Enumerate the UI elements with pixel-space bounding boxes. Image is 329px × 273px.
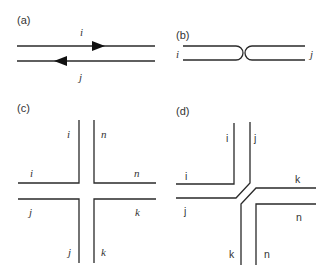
c-label-k-bottom: k [101, 246, 107, 258]
arrow-right-icon [92, 41, 105, 51]
d-label-n-right: n [296, 211, 302, 223]
panel-b: (b) i j [176, 29, 313, 60]
d-label-j-left: j [183, 205, 186, 217]
c-label-i-top: i [67, 128, 70, 140]
panel-b-label: (b) [176, 29, 189, 41]
arrow-left-icon [54, 56, 67, 66]
d-label-i-left: i [185, 170, 187, 182]
path-j [176, 122, 250, 198]
c-label-n-top: n [101, 128, 107, 140]
c-label-n-right: n [134, 167, 140, 179]
right-capped-segment [245, 46, 305, 60]
c-label-j-left: j [27, 206, 32, 218]
panel-a-label: (a) [17, 14, 30, 26]
c-label-k-right: k [135, 206, 141, 218]
d-label-k-bottom: k [229, 248, 235, 260]
line-diagram: (a) i j (b) i j (c) i n i n j k j k (d) [0, 0, 329, 273]
d-label-i-top: i [226, 132, 228, 144]
panel-d-label: (d) [176, 105, 189, 117]
line-i-label: i [80, 26, 83, 38]
path-k [241, 188, 316, 265]
d-label-n-bottom: n [264, 248, 270, 260]
d-label-j-top: j [253, 132, 256, 144]
panel-d: (d) i j i k j n k n [176, 105, 316, 265]
right-segment-label: j [308, 48, 313, 60]
c-label-j-bottom: j [66, 246, 71, 258]
panel-c: (c) i n i n j k j k [17, 102, 156, 263]
line-j-label: j [77, 71, 82, 83]
left-segment-label: i [176, 48, 179, 60]
panel-c-label: (c) [17, 102, 30, 114]
c-label-i-left: i [30, 167, 33, 179]
panel-a: (a) i j [17, 14, 155, 83]
d-label-k-right: k [295, 173, 301, 185]
left-capped-segment [183, 46, 243, 60]
